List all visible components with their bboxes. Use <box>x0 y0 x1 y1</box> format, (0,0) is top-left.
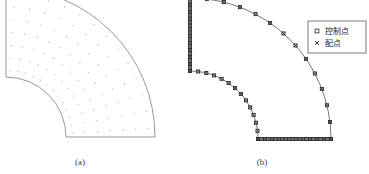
bottom-edge-marker <box>274 137 277 140</box>
panel-a-sample-point <box>78 80 79 81</box>
panel-a-sample-point <box>112 88 113 89</box>
inner-arc-marker <box>249 106 252 109</box>
panel-a-sample-point <box>127 63 128 64</box>
panel-a: (a) <box>6 0 155 167</box>
panel-a-sample-point <box>83 122 84 123</box>
bottom-edge-marker <box>284 137 287 140</box>
panel-a-sample-point <box>13 7 14 8</box>
panel-a-sample-point <box>101 93 102 94</box>
inner-arc-marker <box>244 99 247 102</box>
panel-a-sample-point <box>79 62 80 63</box>
panel-a-sample-point <box>46 69 47 70</box>
outer-arc-marker <box>254 13 257 16</box>
panel-a-sample-point <box>122 129 123 130</box>
panel-a-sample-point <box>135 78 136 79</box>
panel-a-sample-point <box>70 71 71 72</box>
panel-a-sample-point <box>38 64 39 65</box>
panel-a-sample-point <box>135 129 136 130</box>
panel-a-sample-point <box>73 95 74 96</box>
left-edge-marker <box>188 35 191 38</box>
legend: 控制点 配点 <box>308 21 366 53</box>
panel-a-sample-point <box>124 83 125 84</box>
figure-svg: (a) (b) 控制点 配点 <box>0 0 369 174</box>
panel-a-sample-point <box>69 117 70 118</box>
inner-arc-marker <box>234 87 237 90</box>
left-edge-marker <box>188 38 191 41</box>
panel-a-sample-point <box>77 104 78 105</box>
outer-arc-marker <box>313 72 316 75</box>
panel-a-sample-point <box>81 113 82 114</box>
panel-a-sample-point <box>88 54 89 55</box>
panel-a-sample-point <box>106 36 107 37</box>
panel-a-sample-point <box>33 76 34 77</box>
left-edge-marker <box>188 52 191 55</box>
panel-a-sample-point <box>64 6 65 7</box>
left-edge-marker <box>188 31 191 34</box>
left-edge-marker <box>188 59 191 62</box>
panel-a-sample-point <box>72 132 73 133</box>
inner-arc-marker <box>205 71 208 74</box>
bottom-edge-marker <box>323 137 326 140</box>
legend-label-control-point: 控制点 <box>325 26 349 36</box>
bottom-edge-marker <box>256 137 259 140</box>
panel-b-caption: (b) <box>257 157 268 167</box>
inner-arc-marker <box>227 81 230 84</box>
panel-a-sample-point <box>11 45 12 46</box>
left-edge-marker <box>188 0 191 3</box>
panel-a-sample-point <box>88 72 89 73</box>
panel-a-sample-point <box>43 53 44 54</box>
left-edge-marker <box>188 69 191 72</box>
panel-a-sample-point <box>62 64 63 65</box>
inner-arc-marker <box>252 113 255 116</box>
panel-a-sample-point <box>53 29 54 30</box>
bottom-edge-marker <box>319 137 322 140</box>
outer-arc-marker <box>269 21 272 24</box>
left-edge-marker <box>188 63 191 66</box>
panel-a-sample-point <box>17 71 18 72</box>
panel-a-sample-point <box>93 24 94 25</box>
inner-arc-marker <box>213 74 216 77</box>
left-edge-marker <box>188 56 191 59</box>
bottom-edge-marker <box>316 137 319 140</box>
panel-a-caption: (a) <box>75 157 85 167</box>
inner-arc-marker <box>254 121 257 124</box>
panel-a-sample-point <box>53 58 54 59</box>
bottom-edge-marker <box>291 137 294 140</box>
panel-a-sample-point <box>10 57 11 58</box>
panel-a-sample-point <box>70 54 71 55</box>
panel-a-sample-point <box>54 74 55 75</box>
panel-a-sample-point <box>121 115 122 116</box>
legend-label-collocation-point: 配点 <box>325 39 341 48</box>
outer-arc-marker <box>282 32 285 35</box>
left-edge-marker <box>188 3 191 6</box>
outer-arc-marker <box>294 44 297 47</box>
panel-a-sample-point <box>98 64 99 65</box>
bottom-edge-marker <box>326 137 329 140</box>
inner-arc-marker <box>220 77 223 80</box>
bottom-edge-marker <box>309 137 312 140</box>
panel-a-sample-point <box>25 73 26 74</box>
left-edge-marker <box>188 49 191 52</box>
panel-a-sample-point <box>61 80 62 81</box>
panel-a-sample-point <box>66 36 67 37</box>
inner-arc-marker <box>239 92 242 95</box>
panel-a-sample-point <box>27 21 28 22</box>
left-edge-marker <box>188 42 191 45</box>
panel-a-sample-point <box>48 0 49 1</box>
panel-a-sample-point <box>97 45 98 46</box>
panel-a-annulus-outline <box>6 0 155 137</box>
panel-a-sample-point <box>12 32 13 33</box>
panel-a-sample-point <box>129 98 130 99</box>
outer-arc-marker <box>222 1 225 4</box>
panel-a-sample-point <box>22 46 23 47</box>
panel-a-sample-point <box>95 82 96 83</box>
left-edge-marker <box>188 7 191 10</box>
bottom-edge-marker <box>260 137 263 140</box>
panel-a-sample-point <box>86 34 87 35</box>
panel-a-sample-point <box>52 89 53 90</box>
panel-a-sample-point <box>146 111 147 112</box>
bottom-edge-marker <box>270 137 273 140</box>
panel-a-sample-point <box>66 109 67 110</box>
panel-a-sample-point <box>46 84 47 85</box>
panel-a-sample-point <box>59 18 60 19</box>
